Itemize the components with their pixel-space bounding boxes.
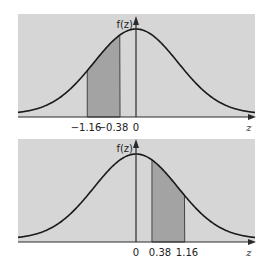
bottom-tick-label: 0	[133, 247, 139, 258]
top-y-axis-label: f(z)	[116, 19, 133, 30]
top-x-axis-label: z	[245, 122, 252, 133]
top-chart: f(z) z −1.16 −0.38 0	[18, 14, 256, 133]
top-tick-label: −0.38	[98, 122, 129, 133]
top-tick-label: 0	[133, 122, 139, 133]
bottom-x-axis-label: z	[245, 247, 252, 258]
bottom-tick-label: 0.38	[149, 247, 171, 258]
figure: f(z) z −1.16 −0.38 0 f(z) z 0 0.38 1.16	[0, 0, 269, 276]
bottom-y-axis-label: f(z)	[116, 143, 133, 154]
bottom-tick-label: 1.16	[176, 247, 198, 258]
bottom-chart: f(z) z 0 0.38 1.16	[18, 139, 256, 258]
